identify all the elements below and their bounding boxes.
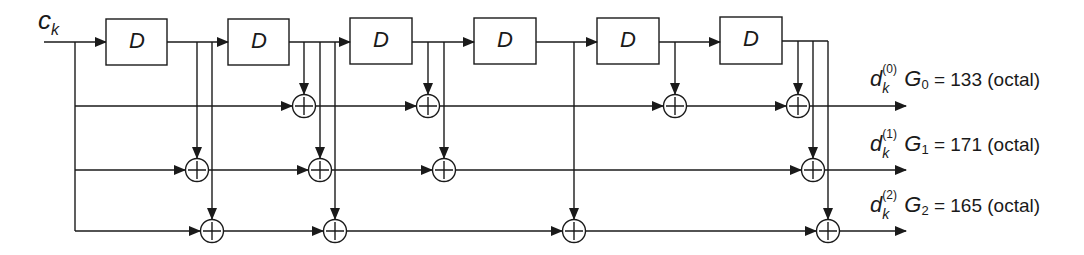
output-label-1: d(1)kG1 = 171 (octal)	[870, 131, 1040, 157]
delay-label-1: D	[129, 28, 145, 54]
output-label-2: d(2)kG2 = 165 (octal)	[870, 192, 1040, 218]
delay-label-5: D	[620, 27, 636, 53]
delay-label-2: D	[251, 28, 267, 54]
delay-label-4: D	[497, 27, 513, 53]
delay-label-3: D	[373, 27, 389, 53]
delay-label-6: D	[743, 26, 759, 52]
output-label-0: d(0)kG0 = 133 (octal)	[870, 66, 1040, 92]
input-label: ck	[38, 5, 59, 39]
